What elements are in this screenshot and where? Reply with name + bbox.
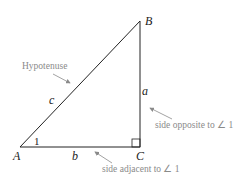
vertex-a-label: A <box>12 149 21 163</box>
opposite-annotation: side opposite to ∠ 1 <box>155 120 233 130</box>
right-triangle-diagram: A B C a b c 1 Hypotenuse side opposite t… <box>0 0 248 185</box>
vertex-c-label: C <box>136 149 145 163</box>
hypotenuse-annotation: Hypotenuse <box>22 61 67 71</box>
hypotenuse-arrow <box>53 74 70 83</box>
right-angle-marker <box>132 139 140 147</box>
side-b-label: b <box>72 149 78 163</box>
opposite-arrow <box>150 108 172 119</box>
angle-1-label: 1 <box>34 135 40 147</box>
vertex-b-label: B <box>145 14 153 28</box>
side-c-label: c <box>49 93 55 107</box>
side-a-label: a <box>142 84 148 98</box>
adjacent-annotation: side adjacent to ∠ 1 <box>102 164 180 174</box>
adjacent-arrow <box>95 152 112 163</box>
triangle <box>20 21 140 147</box>
